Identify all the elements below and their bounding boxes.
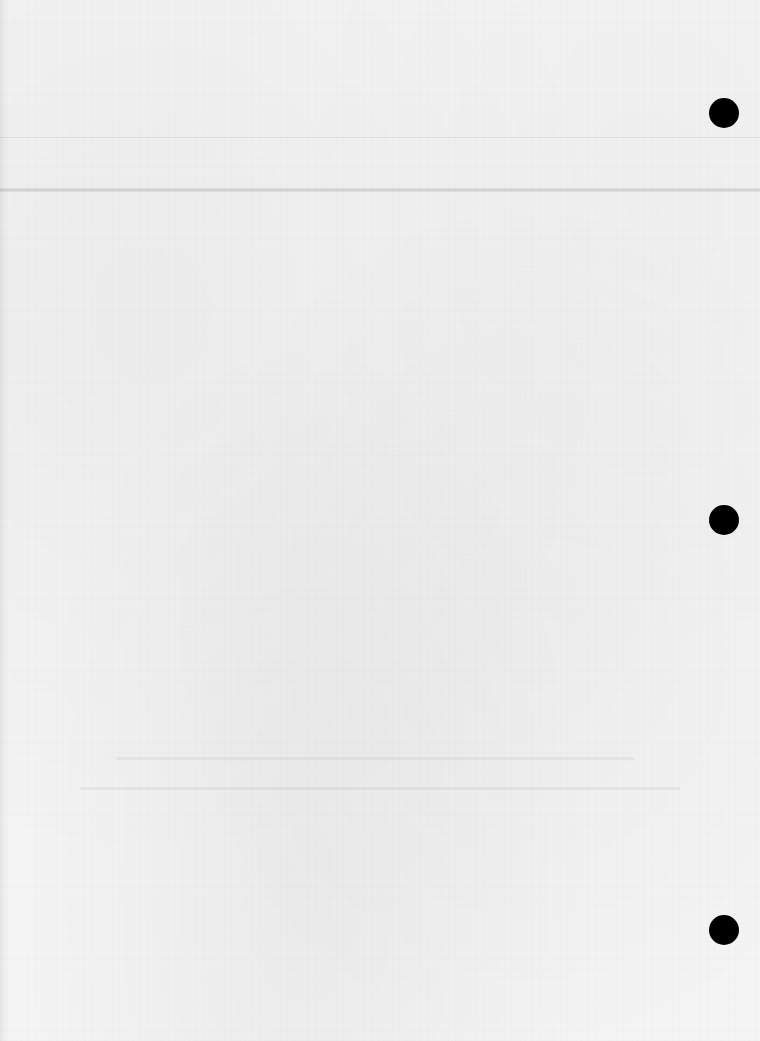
bleed-through-line (80, 787, 680, 790)
punch-hole-bottom-icon (709, 915, 739, 945)
header-band-rule (0, 188, 760, 192)
top-thin-rule (0, 137, 760, 138)
scanned-page (0, 0, 760, 1041)
bleed-through-line (115, 757, 635, 760)
punch-hole-middle-icon (709, 505, 739, 535)
page-edge-shadow (0, 0, 8, 1041)
punch-hole-top-icon (709, 98, 739, 128)
